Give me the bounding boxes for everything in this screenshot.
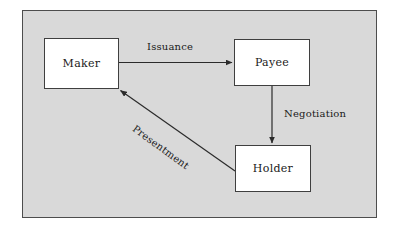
- edge-label-negotiation: Negotiation: [284, 108, 346, 119]
- edge-label-issuance: Issuance: [147, 41, 193, 52]
- node-payee-label: Payee: [255, 56, 289, 69]
- node-holder-label: Holder: [253, 162, 293, 175]
- node-holder[interactable]: Holder: [235, 145, 311, 192]
- diagram-canvas: Maker Payee Holder Issuance Negotiation …: [0, 0, 399, 233]
- node-payee[interactable]: Payee: [234, 39, 310, 86]
- node-maker-label: Maker: [63, 57, 101, 70]
- node-maker[interactable]: Maker: [44, 38, 119, 89]
